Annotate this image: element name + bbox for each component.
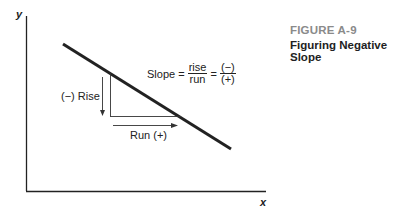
slope-formula: Slope = rise run = (−) (+) xyxy=(147,62,236,85)
figure-title: Figuring Negative Slope xyxy=(290,39,417,63)
fraction-denominator: run xyxy=(188,74,208,85)
run-label: Run (+) xyxy=(130,129,167,141)
rise-over-run-fraction: rise run xyxy=(188,62,208,85)
sign-fraction: (−) (+) xyxy=(220,62,236,85)
figure-number: FIGURE A-9 xyxy=(290,24,357,36)
x-axis-label: x xyxy=(260,196,266,208)
sign-denominator: (+) xyxy=(220,74,236,85)
y-axis-label: y xyxy=(16,8,22,20)
rise-arrowhead-icon xyxy=(100,110,105,116)
formula-equals: = xyxy=(210,68,216,80)
run-arrowhead-icon xyxy=(171,123,178,128)
rise-label: (−) Rise xyxy=(61,90,100,102)
formula-prefix: Slope = xyxy=(147,68,185,80)
